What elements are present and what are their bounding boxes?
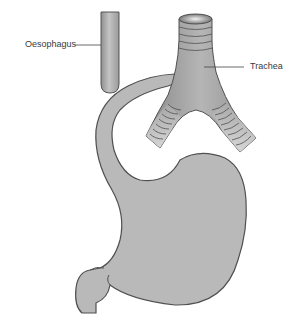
oesophagus-label: Oesophagus xyxy=(25,40,76,49)
oesophagus-segment xyxy=(101,12,119,93)
trachea-label: Trachea xyxy=(250,62,283,71)
diagram-canvas: Oesophagus Trachea xyxy=(0,0,291,322)
